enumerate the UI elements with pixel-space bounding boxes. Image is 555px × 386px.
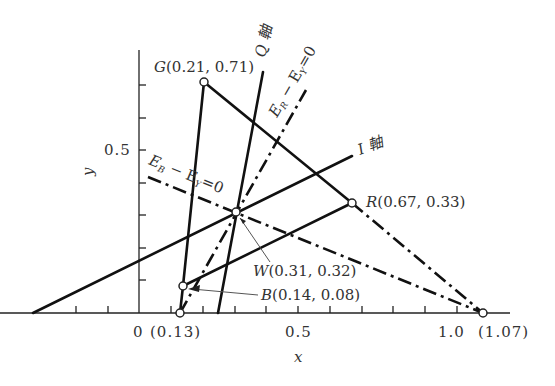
label-r: R(0.67, 0.33) xyxy=(365,193,465,211)
g-r-side xyxy=(204,82,352,203)
y-tick-05: 0.5 xyxy=(104,141,131,159)
label-g: G(0.21, 0.71) xyxy=(154,58,254,76)
point-w xyxy=(232,208,240,216)
w-arrowhead xyxy=(240,218,246,224)
chromaticity-diagram: 0 (0.13) 0.5 1.0 (1.07) 0.5 x y G(0.21, … xyxy=(0,0,555,386)
x-ticks xyxy=(76,306,457,313)
point-b xyxy=(179,282,187,290)
y-ticks xyxy=(139,85,146,280)
x-tick-107: (1.07) xyxy=(478,323,529,341)
q-axis-label: Q 軸 xyxy=(251,22,276,59)
r-to-107-line xyxy=(352,203,483,313)
i-axis-label: I 軸 xyxy=(354,132,387,159)
b-leader xyxy=(192,289,258,295)
point-107 xyxy=(479,309,487,317)
point-g xyxy=(200,78,208,86)
x-axis-label: x xyxy=(294,348,303,366)
point-r xyxy=(348,199,356,207)
point-013 xyxy=(176,309,184,317)
x-tick-05: 0.5 xyxy=(285,323,312,341)
label-b: B(0.14, 0.08) xyxy=(260,286,360,304)
x-tick-013: (0.13) xyxy=(150,323,201,341)
x-tick-10: 1.0 xyxy=(438,323,465,341)
x-tick-0: 0 xyxy=(133,323,144,341)
label-w: W(0.31, 0.32) xyxy=(253,262,356,280)
er-ey-label: ER − EY=0 xyxy=(264,43,320,122)
y-axis-label: y xyxy=(79,167,97,177)
